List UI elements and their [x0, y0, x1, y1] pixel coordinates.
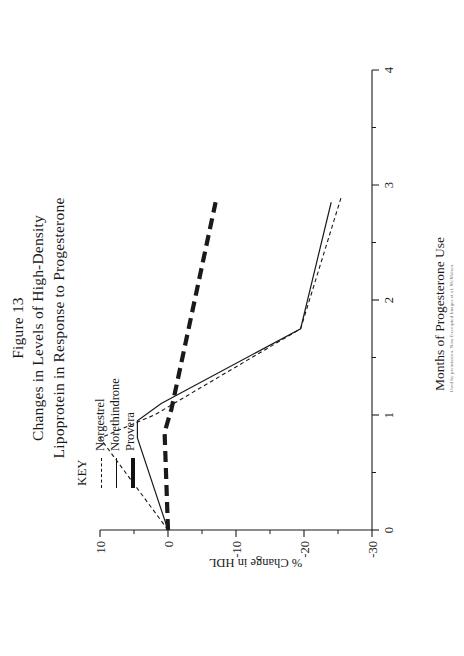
- x-tick-label: 0: [382, 527, 396, 533]
- title-line-2: Changes in Levels of High-Density: [28, 0, 48, 656]
- x-tick-label: 2: [382, 297, 396, 303]
- y-tick-label: 0: [162, 541, 176, 547]
- x-axis-label: Months of Progesterone Use: [432, 64, 448, 564]
- line-chart: 01234100-10-20-30: [96, 64, 402, 564]
- series-norethindrone: [137, 202, 331, 530]
- figure-page: Figure 13 Changes in Levels of High-Dens…: [0, 0, 464, 656]
- x-tick-label: 4: [382, 66, 396, 73]
- chart-plot-area: 01234100-10-20-30: [96, 64, 402, 564]
- title-line-1: Figure 13: [8, 0, 28, 656]
- y-axis-label: % Change in HDL: [156, 555, 356, 570]
- x-tick-label: 3: [382, 182, 396, 188]
- series-provera: [165, 202, 216, 530]
- y-tick-label: -30: [366, 541, 380, 558]
- figure-credit: Used by permission. Now Excerpted Images…: [449, 0, 454, 656]
- title-line-3: Lipoprotein in Response to Progesterone: [49, 0, 69, 656]
- figure-title: Figure 13 Changes in Levels of High-Dens…: [8, 0, 69, 656]
- series-norgestrel: [100, 197, 341, 531]
- x-tick-label: 1: [382, 412, 396, 418]
- legend-heading: KEY: [74, 378, 90, 488]
- y-tick-label: 10: [96, 541, 108, 554]
